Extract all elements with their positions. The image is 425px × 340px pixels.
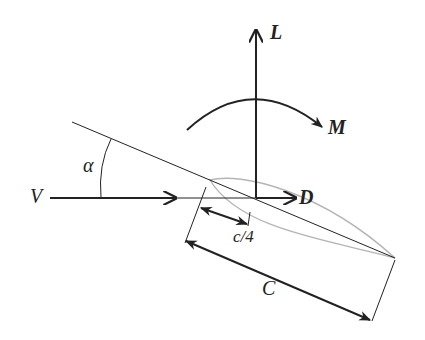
moment-label: M xyxy=(328,117,346,137)
chord-dimension xyxy=(186,241,370,320)
alpha-label: α xyxy=(83,155,94,175)
alpha-arc xyxy=(100,139,111,198)
chord-label: C xyxy=(262,278,275,298)
leading-edge-extension xyxy=(185,187,206,243)
quarter-chord-dimension xyxy=(201,208,247,224)
quarter-chord-label: c/4 xyxy=(233,228,254,245)
moment-arrow xyxy=(187,99,322,130)
airfoil-diagram: L M D V α c/4 C xyxy=(0,0,425,340)
diagram-canvas xyxy=(0,0,425,340)
lift-label: L xyxy=(270,22,282,42)
velocity-label: V xyxy=(30,186,42,206)
trailing-edge-extension xyxy=(372,260,395,321)
drag-label: D xyxy=(299,187,313,207)
